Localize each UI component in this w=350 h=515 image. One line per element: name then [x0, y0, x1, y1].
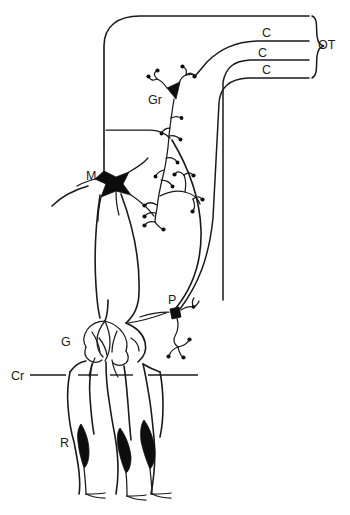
body-outline	[52, 130, 201, 323]
c-fiber-2	[223, 60, 309, 300]
figure-root: OT C C C Gr M P G Cr R	[0, 0, 350, 515]
label-c-fiber-2: C	[258, 46, 267, 60]
label-crista: Cr	[11, 369, 24, 383]
label-receptor: R	[60, 436, 69, 450]
purkinje-cell-group	[140, 298, 199, 360]
receptor-cell	[78, 424, 105, 498]
label-purkinje-cell: P	[168, 293, 176, 307]
c-fiber-3	[180, 78, 309, 309]
ganglion-cluster-group	[84, 300, 146, 377]
c-fiber-1	[196, 41, 309, 75]
granule-cell-group	[142, 64, 196, 231]
label-optic-tectum: OT	[318, 38, 336, 52]
label-ganglion: G	[61, 335, 71, 349]
receptor-cell	[141, 420, 171, 498]
label-granule-cell: Gr	[148, 93, 162, 107]
mauthner-cell-group	[77, 158, 154, 221]
neural-circuit-diagram: OT C C C Gr M P G Cr R	[0, 0, 350, 515]
top-tract-outline	[104, 16, 309, 144]
label-mauthner-cell: M	[86, 169, 96, 183]
label-c-fiber-3: C	[262, 63, 271, 77]
receptor-cells-group	[78, 420, 171, 500]
label-c-fiber-1: C	[262, 26, 271, 40]
